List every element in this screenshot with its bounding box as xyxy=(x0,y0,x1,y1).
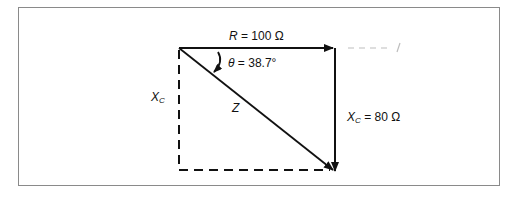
xc-left-subscript: C xyxy=(159,96,165,105)
r-value: = 100 Ω xyxy=(241,29,284,43)
xc-right-label: XC = 80 Ω xyxy=(347,110,400,125)
xc-left-symbol: X xyxy=(151,90,159,104)
theta-symbol: θ xyxy=(228,56,235,70)
theta-label: θ = 38.7° xyxy=(228,56,276,70)
theta-angle-arc xyxy=(214,52,220,72)
xc-value: = 80 Ω xyxy=(364,110,400,124)
r-symbol: R xyxy=(229,29,238,43)
z-label: Z xyxy=(232,101,239,115)
xc-symbol: X xyxy=(347,110,355,124)
r-label: R = 100 Ω xyxy=(229,29,284,43)
xc-left-label: XC xyxy=(151,90,165,105)
xc-subscript: C xyxy=(355,116,361,125)
theta-value: = 38.7° xyxy=(238,56,277,70)
